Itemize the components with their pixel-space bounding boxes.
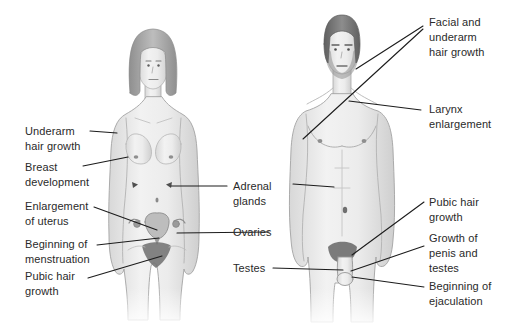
female-body: [109, 97, 200, 320]
diagram-canvas: Underarm hair growth Breast development …: [0, 0, 505, 329]
female-navel: [156, 197, 159, 202]
male-navel: [343, 207, 347, 213]
leader-facial-hair: [356, 26, 423, 69]
label-testes: Testes: [233, 261, 293, 276]
label-pubic-hair-growth-female: Pubic hair growth: [25, 269, 83, 299]
label-beginning-of-ejaculation: Beginning of ejaculation: [429, 279, 495, 309]
figure-fadeout: [90, 288, 410, 329]
label-pubic-hair-growth-male: Pubic hair growth: [429, 195, 485, 225]
label-breast-development: Breast development: [25, 160, 103, 190]
label-enlargement-of-uterus: Enlargement of uterus: [25, 199, 97, 229]
label-larynx-enlargement: Larynx enlargement: [429, 102, 497, 132]
label-facial-and-underarm-hair-growth: Facial and underarm hair growth: [429, 15, 491, 60]
male-figure: [289, 15, 394, 322]
label-adrenal-glands: Adrenal glands: [233, 179, 281, 209]
leader-underarm-hair-growth-female: [90, 131, 117, 133]
label-beginning-of-menstruation: Beginning of menstruation: [25, 237, 99, 267]
female-figure: [109, 29, 200, 320]
label-growth-of-penis-and-testes: Growth of penis and testes: [429, 231, 483, 276]
label-ovaries: Ovaries: [233, 225, 293, 240]
label-underarm-hair-growth-female: Underarm hair growth: [25, 124, 91, 154]
